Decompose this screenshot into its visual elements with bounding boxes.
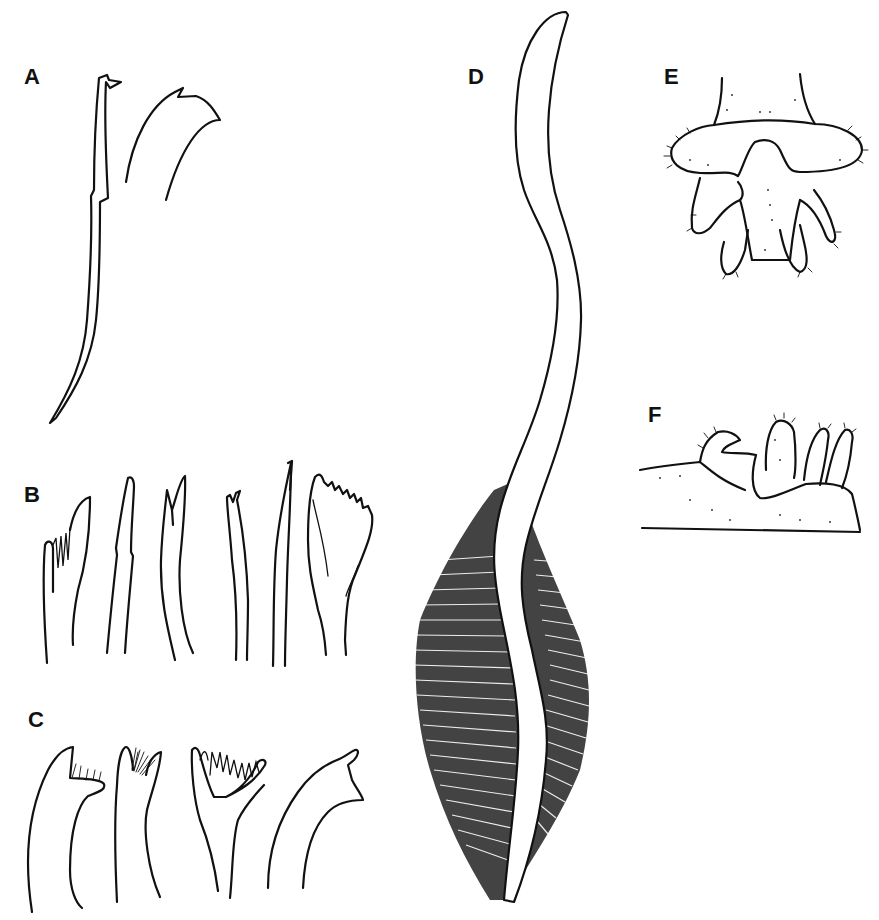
- panel-e-drawing: [664, 74, 868, 279]
- panel-c-drawing: [28, 747, 363, 912]
- figure-plate: A B C D E F: [0, 0, 879, 920]
- panel-b-drawing: [44, 461, 373, 666]
- stipple: [659, 439, 831, 523]
- panel-f-drawing: [640, 413, 860, 532]
- illustration-canvas: [0, 0, 879, 920]
- panel-a-drawing: [50, 75, 220, 423]
- panel-d-drawing: [413, 12, 589, 902]
